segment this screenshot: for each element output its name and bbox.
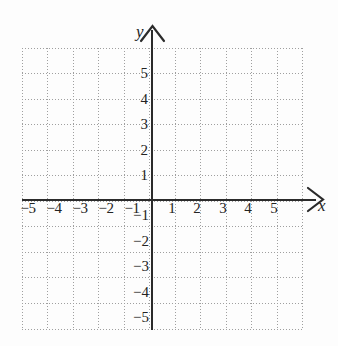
gridline-vertical (73, 48, 74, 330)
gridline-horizontal (22, 99, 302, 100)
x-axis-label: x (318, 196, 326, 216)
y-axis-line (151, 30, 153, 330)
gridline-horizontal (22, 277, 302, 278)
gridline-vertical (47, 48, 48, 330)
gridline-vertical (175, 48, 176, 330)
x-tick-label: 3 (216, 201, 230, 216)
x-tick-label: −5 (15, 201, 41, 216)
gridline-horizontal (22, 124, 302, 125)
y-tick-label: 4 (118, 92, 148, 107)
coordinate-plane-figure: −5 −4 −3 −2 −1 1 2 3 4 5 5 4 3 2 1 −1 −2… (0, 0, 338, 346)
gridline-horizontal (22, 48, 302, 49)
gridline-vertical (277, 48, 278, 330)
y-tick-label: −2 (119, 234, 149, 249)
y-tick-label: 5 (118, 66, 148, 81)
x-tick-label: 4 (241, 201, 255, 216)
gridline-horizontal (22, 73, 302, 74)
gridline-horizontal (22, 175, 302, 176)
x-tick-label: −4 (41, 201, 67, 216)
x-tick-label: 5 (267, 201, 281, 216)
y-tick-label: −5 (119, 310, 149, 325)
x-tick-label: −3 (67, 201, 93, 216)
gridline-horizontal (22, 150, 302, 151)
y-tick-label: −4 (119, 285, 149, 300)
gridline-horizontal (22, 252, 302, 253)
gridline-horizontal (22, 303, 302, 304)
y-tick-label: −3 (119, 259, 149, 274)
y-tick-label: 1 (118, 168, 148, 183)
gridline-horizontal (22, 329, 302, 330)
y-tick-label: −1 (119, 208, 149, 223)
gridline-vertical (149, 48, 150, 330)
grid (22, 48, 302, 330)
gridline-vertical (200, 48, 201, 330)
gridline-vertical (98, 48, 99, 330)
gridline-vertical (226, 48, 227, 330)
gridline-horizontal (22, 226, 302, 227)
x-tick-label: 1 (165, 201, 179, 216)
y-axis-label: y (136, 22, 144, 42)
x-tick-label: −2 (93, 201, 119, 216)
y-tick-label: 2 (118, 143, 148, 158)
y-tick-label: 3 (118, 117, 148, 132)
gridline-vertical (302, 48, 303, 330)
x-tick-label: 2 (190, 201, 204, 216)
gridline-vertical (22, 48, 23, 330)
gridline-vertical (251, 48, 252, 330)
